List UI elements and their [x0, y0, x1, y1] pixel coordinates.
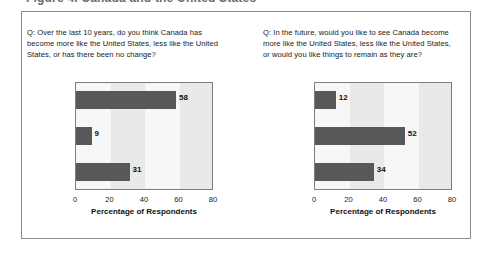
x-tick-label: 20 [344, 195, 352, 204]
x-tick-label: 60 [413, 195, 421, 204]
bar-row: Less like the U.S. 52 [315, 119, 451, 155]
bar-row: No change 31 [76, 155, 212, 190]
plot-area-left: More like the U.S. 58 Less like the U.S.… [75, 82, 213, 190]
value-label: 34 [377, 165, 386, 174]
value-label: 58 [179, 93, 188, 102]
x-tick-label: 0 [312, 195, 316, 204]
bar[interactable] [315, 163, 374, 181]
value-label: 31 [133, 165, 142, 174]
x-axis-right: 0 20 40 60 80 Percentage of Respondents [314, 190, 452, 224]
value-label: 52 [408, 129, 417, 138]
bar[interactable] [315, 91, 336, 109]
bar-row: More like the U.S. 12 [315, 83, 451, 119]
x-tick-label: 60 [174, 195, 182, 204]
x-axis-title: Percentage of Respondents [314, 207, 452, 216]
figure-title: Figure 4. Canada and the United States [26, 0, 256, 5]
bar[interactable] [76, 163, 130, 181]
bar[interactable] [76, 127, 92, 145]
x-tick-label: 20 [105, 195, 113, 204]
x-tick-label: 0 [73, 195, 77, 204]
bar-row: Remain the same 34 [315, 155, 451, 190]
value-label: 9 [95, 129, 99, 138]
question-text-right: Q: In the future, would you like to see … [263, 27, 459, 61]
x-axis-left: 0 20 40 60 80 Percentage of Respondents [75, 190, 213, 224]
bar-chart-left: More like the U.S. 58 Less like the U.S.… [22, 82, 232, 227]
x-tick-label: 40 [379, 195, 387, 204]
bar[interactable] [76, 91, 176, 109]
chart-panel-right: Q: In the future, would you like to see … [241, 12, 466, 238]
bar-row: Less like the U.S. 9 [76, 119, 212, 155]
x-tick-label: 80 [209, 195, 217, 204]
bar-row: More like the U.S. 58 [76, 83, 212, 119]
figure-title-strip: Figure 4. Canada and the United States [0, 0, 492, 9]
value-label: 12 [339, 93, 348, 102]
bar-chart-right: More like the U.S. 12 Less like the U.S.… [261, 82, 471, 227]
bar[interactable] [315, 127, 405, 145]
x-tick-label: 80 [448, 195, 456, 204]
chart-panel-left: Q: Over the last 10 years, do you think … [22, 12, 247, 238]
x-axis-title: Percentage of Respondents [75, 207, 213, 216]
plot-area-right: More like the U.S. 12 Less like the U.S.… [314, 82, 452, 190]
question-text-left: Q: Over the last 10 years, do you think … [27, 27, 223, 61]
figure-frame: Q: Over the last 10 years, do you think … [21, 11, 471, 239]
x-tick-label: 40 [140, 195, 148, 204]
